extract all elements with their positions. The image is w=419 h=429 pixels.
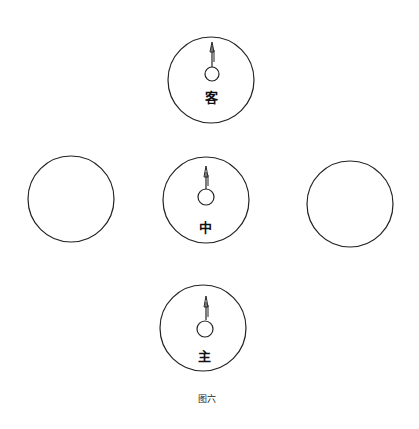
circle-right: [307, 161, 393, 247]
pointer-icon: [197, 296, 213, 337]
circle-top: 客: [168, 37, 254, 123]
label-zhong: 中: [199, 220, 212, 235]
circle-bottom: 主: [160, 285, 246, 371]
figure-caption: 图六: [198, 393, 216, 404]
pointer-icon: [205, 42, 219, 81]
diagram-canvas: 客 中 主 图六: [0, 0, 419, 429]
pointer-icon: [198, 166, 214, 205]
label-ke: 客: [205, 90, 219, 105]
circle-left: [28, 156, 114, 242]
circle-center: 中: [163, 157, 249, 243]
label-zhu: 主: [198, 349, 211, 364]
